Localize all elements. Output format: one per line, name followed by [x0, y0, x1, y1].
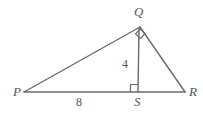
measure-label-base: 8	[76, 96, 82, 108]
vertex-label-r: R	[189, 85, 197, 98]
segment-qr	[140, 27, 185, 92]
geometry-canvas	[0, 0, 203, 113]
vertex-label-q: Q	[134, 5, 143, 18]
right-angle-mark-q	[136, 29, 146, 39]
measure-label-altitude: 4	[122, 58, 128, 70]
vertex-label-p: P	[13, 85, 21, 98]
vertex-label-s: S	[134, 95, 141, 108]
geometry-figure: P Q R S 4 8	[0, 0, 203, 113]
right-angle-mark-s	[131, 85, 139, 93]
